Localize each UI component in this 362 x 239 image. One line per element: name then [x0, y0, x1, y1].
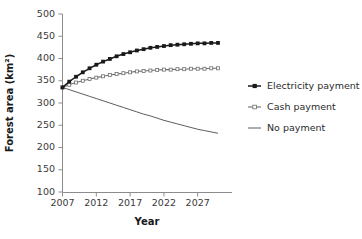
data-point-marker: [189, 42, 193, 46]
y-tick-label: 100: [37, 186, 55, 197]
data-point-marker: [203, 67, 206, 70]
x-tick-label: 2012: [84, 197, 108, 208]
legend-label: Electricity payment: [267, 80, 360, 91]
data-point-marker: [95, 76, 98, 79]
data-point-marker: [75, 81, 78, 84]
data-point-marker: [209, 41, 213, 45]
data-point-marker: [217, 67, 220, 70]
data-point-marker: [61, 86, 65, 90]
data-point-marker: [135, 49, 139, 53]
chart-canvas: 100150200250300350400450500 200720122017…: [0, 0, 362, 239]
data-point-marker: [196, 41, 200, 45]
data-point-marker: [101, 60, 105, 64]
legend-marker: [253, 105, 257, 109]
x-tick-label: 2007: [50, 197, 74, 208]
forest-area-line-chart: 100150200250300350400450500 200720122017…: [0, 0, 362, 239]
data-point-marker: [142, 47, 146, 51]
series-cash-payment: [61, 67, 220, 89]
data-point-marker: [162, 68, 165, 71]
data-point-marker: [74, 75, 78, 79]
x-axis-tick-labels: 20072012201720222027: [50, 197, 209, 208]
legend-marker: [253, 84, 257, 88]
y-tick-label: 200: [37, 141, 55, 152]
y-axis-ticks: [59, 14, 63, 192]
y-tick-label: 150: [37, 163, 55, 174]
y-axis-title: Forest area (km²): [4, 54, 15, 153]
data-point-marker: [128, 50, 132, 54]
data-point-marker: [176, 68, 179, 71]
x-axis: 20072012201720222027: [50, 193, 232, 209]
plot-series-group: [61, 41, 220, 133]
data-point-marker: [142, 69, 145, 72]
data-point-marker: [88, 66, 92, 70]
data-point-marker: [94, 63, 98, 67]
data-point-marker: [108, 57, 112, 61]
data-point-marker: [156, 69, 159, 72]
y-tick-label: 450: [37, 30, 55, 41]
data-point-marker: [135, 70, 138, 73]
data-point-marker: [189, 67, 192, 70]
y-tick-label: 300: [37, 97, 55, 108]
data-point-marker: [121, 52, 125, 56]
x-tick-label: 2027: [186, 197, 210, 208]
data-point-marker: [148, 46, 152, 50]
data-point-marker: [67, 80, 71, 84]
data-point-marker: [81, 70, 85, 74]
data-point-marker: [203, 41, 207, 45]
x-tick-label: 2017: [118, 197, 142, 208]
data-point-marker: [169, 43, 173, 47]
x-tick-label: 2022: [152, 197, 176, 208]
data-point-marker: [68, 83, 71, 86]
data-point-marker: [182, 42, 186, 46]
y-tick-label: 250: [37, 119, 55, 130]
x-axis-ticks: [63, 193, 198, 197]
y-tick-label: 500: [37, 8, 55, 19]
data-point-marker: [162, 44, 166, 48]
data-point-marker: [183, 68, 186, 71]
data-point-marker: [210, 67, 213, 70]
data-point-marker: [129, 71, 132, 74]
data-point-marker: [102, 75, 105, 78]
chart-legend: Electricity paymentCash paymentNo paymen…: [248, 80, 360, 133]
legend-label: No payment: [267, 122, 326, 133]
data-point-marker: [196, 67, 199, 70]
legend-item-cash-payment[interactable]: Cash payment: [248, 101, 336, 112]
data-point-marker: [108, 73, 111, 76]
data-point-marker: [169, 68, 172, 71]
data-point-marker: [81, 79, 84, 82]
legend-label: Cash payment: [267, 101, 336, 112]
series-no-payment: [63, 87, 219, 133]
y-tick-label: 350: [37, 74, 55, 85]
data-point-marker: [216, 41, 220, 45]
x-axis-title: Year: [134, 216, 160, 227]
y-tick-label: 400: [37, 52, 55, 63]
series-line: [63, 87, 219, 133]
y-axis-tick-labels: 100150200250300350400450500: [37, 8, 55, 197]
data-point-marker: [176, 43, 180, 47]
legend-item-electricity-payment[interactable]: Electricity payment: [248, 80, 360, 91]
data-point-marker: [155, 45, 159, 49]
series-line: [63, 43, 219, 88]
data-point-marker: [149, 69, 152, 72]
data-point-marker: [115, 54, 119, 58]
y-axis: 100150200250300350400450500: [37, 8, 63, 197]
legend-item-no-payment[interactable]: No payment: [248, 122, 326, 133]
data-point-marker: [115, 73, 118, 76]
data-point-marker: [122, 72, 125, 75]
data-point-marker: [88, 77, 91, 80]
